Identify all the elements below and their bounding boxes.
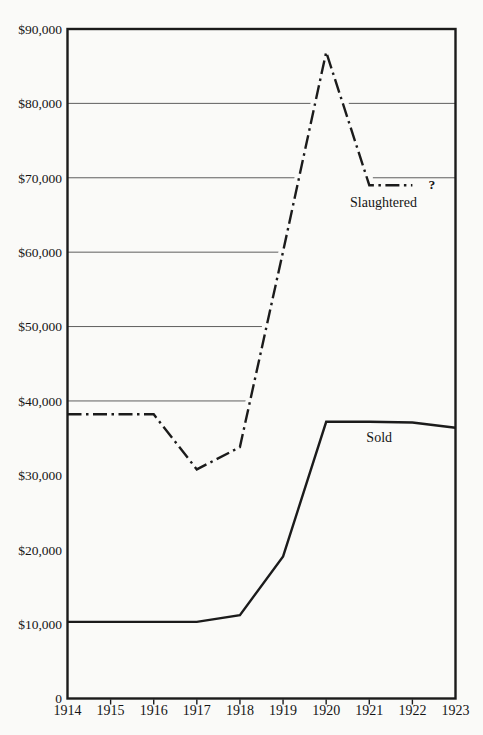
slaughtered-line-casing [68,52,413,469]
y-axis-label: $20,000 [18,543,62,558]
x-axis-label: 1917 [183,703,211,718]
y-axis-label: $40,000 [18,394,62,409]
y-axis-label: $10,000 [18,617,62,632]
x-axis-label: 1916 [140,703,168,718]
y-axis-label: $30,000 [18,468,62,483]
x-axis-label: 1918 [226,703,254,718]
y-axis-label: $90,000 [18,22,62,37]
y-axis-label: $50,000 [18,319,62,334]
slaughtered-line [68,52,413,469]
series-label-sold: Sold [366,430,392,445]
x-axis-label: 1914 [54,703,82,718]
x-axis-label: 1921 [355,703,383,718]
unknown-value-marker: ? [428,177,435,192]
y-axis-label: $60,000 [18,245,62,260]
line-chart: $90,000$80,000$70,000$60,000$50,000$40,0… [0,0,483,735]
x-axis-label: 1919 [269,703,297,718]
sold-line-casing [68,422,456,622]
y-axis-label: $80,000 [18,96,62,111]
chart-page: $90,000$80,000$70,000$60,000$50,000$40,0… [0,0,483,735]
series-label-slaughtered: Slaughtered [350,195,417,210]
x-axis-label: 1915 [97,703,125,718]
x-axis-label: 1923 [442,703,470,718]
y-axis-label: $70,000 [18,171,62,186]
x-axis-label: 1922 [398,703,426,718]
x-axis-label: 1920 [312,703,340,718]
